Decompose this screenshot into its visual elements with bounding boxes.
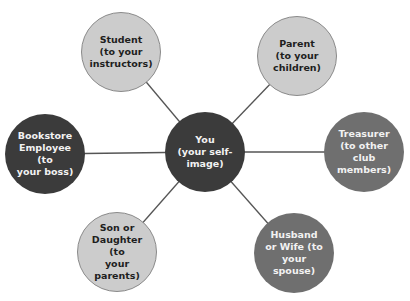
node-you-center: You (your self- image) [165,112,245,192]
node-husband-wife: Husband or Wife (to your spouse) [254,213,334,293]
node-you-label: You (your self- image) [171,134,238,170]
node-son-daughter-label: Son or Daughter (to your parents) [78,222,156,282]
node-bookstore-employee-label: Bookstore Employee (to your boss) [5,130,85,178]
node-parent: Parent (to your children) [257,16,337,96]
node-husband-wife-label: Husband or Wife (to your spouse) [254,229,334,277]
node-bookstore-employee: Bookstore Employee (to your boss) [5,114,85,194]
node-student-label: Student (to your instructors) [83,34,158,70]
node-parent-label: Parent (to your children) [267,38,327,74]
node-student: Student (to your instructors) [81,12,161,92]
node-treasurer: Treasurer (to other club members) [324,112,404,192]
node-treasurer-label: Treasurer (to other club members) [324,128,404,176]
node-son-daughter: Son or Daughter (to your parents) [77,212,157,292]
